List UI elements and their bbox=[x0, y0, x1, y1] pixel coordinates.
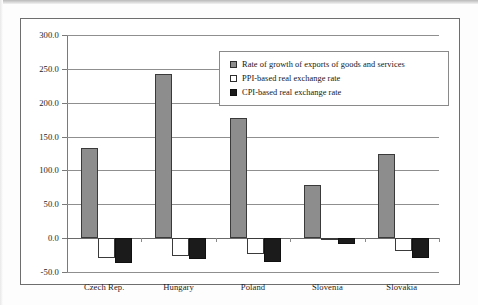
y-axis-label-0: 0.0 bbox=[48, 233, 59, 243]
legend-label-cpi-real-exchange-rate: CPI-based real exchange rate bbox=[242, 88, 341, 97]
bar-series-2-1 bbox=[189, 238, 206, 259]
y-tick-mark-250 bbox=[62, 69, 67, 70]
bar-group-hungary bbox=[155, 35, 206, 272]
x-tick-mark-3 bbox=[365, 238, 366, 242]
y-axis-label-250: 250.0 bbox=[39, 64, 59, 74]
x-axis-label-3: Slovenia bbox=[312, 282, 343, 292]
bar-series-0-4 bbox=[378, 154, 395, 239]
x-axis-label-2: Poland bbox=[241, 282, 265, 292]
y-axis-label--50: -50.0 bbox=[41, 267, 59, 277]
y-tick-mark-100 bbox=[62, 170, 67, 171]
bar-series-0-1 bbox=[155, 74, 172, 239]
bar-series-1-1 bbox=[172, 238, 189, 256]
legend-item-cpi-real-exchange-rate: CPI-based real exchange rate bbox=[230, 85, 440, 99]
chart-legend: Rate of growth of exports of goods and s… bbox=[219, 51, 449, 106]
legend-swatch-filled-black-square-icon bbox=[230, 89, 237, 96]
bar-series-1-3 bbox=[321, 238, 338, 240]
legend-label-exports-growth: Rate of growth of exports of goods and s… bbox=[242, 60, 405, 69]
bar-series-1-0 bbox=[98, 238, 115, 258]
bar-series-2-2 bbox=[264, 238, 281, 262]
y-tick-mark-300 bbox=[62, 35, 67, 36]
y-tick-mark--50 bbox=[62, 272, 67, 273]
x-tick-mark-0 bbox=[141, 238, 142, 242]
bar-series-0-2 bbox=[230, 118, 247, 239]
legend-label-ppi-real-exchange-rate: PPI-based real exchange rate bbox=[242, 74, 340, 83]
bar-series-2-3 bbox=[338, 238, 355, 244]
y-axis-label-150: 150.0 bbox=[39, 132, 59, 142]
y-tick-mark-50 bbox=[62, 204, 67, 205]
chart-page: 300.0250.0200.0150.0100.050.00.0-50.0Cze… bbox=[0, 0, 478, 305]
y-axis-label-100: 100.0 bbox=[39, 165, 59, 175]
y-tick-mark-200 bbox=[62, 103, 67, 104]
legend-item-exports-growth: Rate of growth of exports of goods and s… bbox=[230, 57, 440, 71]
x-axis-label-4: Slovakia bbox=[386, 282, 417, 292]
bar-series-1-4 bbox=[395, 238, 412, 251]
y-tick-mark-150 bbox=[62, 137, 67, 138]
x-tick-mark-1 bbox=[216, 238, 217, 242]
y-axis-label-300: 300.0 bbox=[39, 30, 59, 40]
legend-swatch-open-white-square-icon bbox=[230, 75, 237, 82]
x-tick-mark-2 bbox=[290, 238, 291, 242]
x-tick-mark-4 bbox=[439, 238, 440, 242]
bar-series-2-0 bbox=[115, 238, 132, 263]
bar-series-0-3 bbox=[304, 185, 321, 238]
gridline--50 bbox=[67, 272, 439, 273]
scan-artifact-left-edge bbox=[0, 0, 3, 305]
chart-frame: 300.0250.0200.0150.0100.050.00.0-50.0Cze… bbox=[20, 18, 460, 285]
scan-artifact-top-band bbox=[0, 0, 478, 4]
y-axis-label-200: 200.0 bbox=[39, 98, 59, 108]
x-axis-label-0: Czech Rep. bbox=[84, 282, 125, 292]
x-axis-label-1: Hungary bbox=[163, 282, 194, 292]
y-axis-label-50: 50.0 bbox=[44, 199, 59, 209]
legend-swatch-filled-gray-square-icon bbox=[230, 61, 237, 68]
legend-item-ppi-real-exchange-rate: PPI-based real exchange rate bbox=[230, 71, 440, 85]
bar-series-1-2 bbox=[247, 238, 264, 254]
y-tick-mark-0 bbox=[62, 238, 67, 239]
bar-series-2-4 bbox=[412, 238, 429, 258]
bar-group-czech-rep bbox=[81, 35, 132, 272]
bar-series-0-0 bbox=[81, 148, 98, 238]
